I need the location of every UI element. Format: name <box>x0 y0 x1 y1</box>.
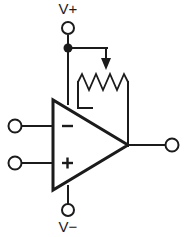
output-terminal[interactable] <box>166 139 179 152</box>
v-plus-label: V+ <box>59 0 78 17</box>
noninverting-input-terminal[interactable] <box>9 157 22 170</box>
inverting-input-terminal[interactable] <box>9 120 22 133</box>
v-plus-terminal[interactable] <box>62 22 74 34</box>
v-minus-terminal[interactable] <box>62 204 74 216</box>
schematic-canvas: V+ V− <box>0 0 187 237</box>
opamp-triangle-body[interactable] <box>53 100 128 190</box>
v-minus-rail <box>62 186 74 216</box>
v-plus-rail <box>62 22 107 104</box>
v-minus-label: V− <box>59 218 78 235</box>
wiper-arrow-icon <box>101 58 111 70</box>
circuit-schematic: V+ V− <box>0 0 187 237</box>
resistor-zigzag <box>78 74 128 90</box>
output-node[interactable] <box>127 139 179 152</box>
potentiometer-wiper[interactable] <box>101 48 111 70</box>
